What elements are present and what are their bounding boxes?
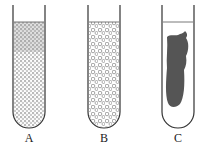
clot-shape bbox=[166, 31, 188, 107]
label-c: C bbox=[163, 131, 193, 146]
particle-fill bbox=[89, 22, 119, 132]
tube-c bbox=[162, 5, 194, 128]
label-a: A bbox=[14, 131, 44, 146]
tube-b bbox=[88, 5, 120, 132]
test-tube-diagram bbox=[0, 0, 207, 150]
label-b: B bbox=[89, 131, 119, 146]
tube-a bbox=[13, 5, 45, 132]
